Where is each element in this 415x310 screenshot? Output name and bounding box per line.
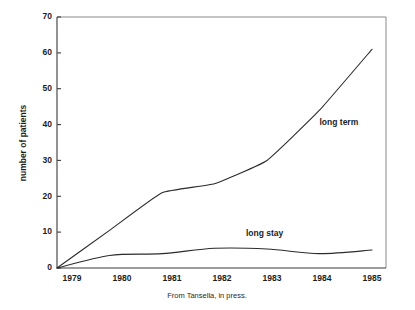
x-axis-tick-labels: 1979 1980 1981 1982 1983 1984 1985 [63,273,382,283]
series-line-long-term [57,49,372,268]
x-tick-label: 1981 [163,273,182,283]
chart-figure: 0 10 20 30 40 50 60 70 number of patient… [0,0,415,310]
y-tick-label: 0 [47,262,52,272]
x-tick-label: 1984 [313,273,332,283]
x-tick-label: 1982 [213,273,232,283]
line-chart-svg: 0 10 20 30 40 50 60 70 number of patient… [0,0,415,310]
x-tick-label: 1980 [113,273,132,283]
y-tick-label: 60 [43,47,53,57]
figure-caption: From Tansella, in press. [167,291,246,300]
y-tick-label: 20 [43,191,53,201]
x-tick-label: 1983 [263,273,282,283]
y-tick-label: 40 [43,119,53,129]
x-tick-label: 1985 [363,273,382,283]
series-line-long-stay [57,248,372,268]
y-tick-label: 30 [43,155,53,165]
y-tick-label: 10 [43,226,53,236]
plot-frame-border [57,17,386,268]
y-tick-label: 50 [43,83,53,93]
y-axis-ticks [57,17,61,268]
y-axis-tick-labels: 0 10 20 30 40 50 60 70 [43,11,53,272]
x-tick-label: 1979 [63,273,82,283]
series-annotation-long-term: long term [320,117,359,127]
series-annotation-long-stay: long stay [246,228,284,238]
y-tick-label: 70 [43,11,53,21]
y-axis-title: number of patients [18,104,28,181]
